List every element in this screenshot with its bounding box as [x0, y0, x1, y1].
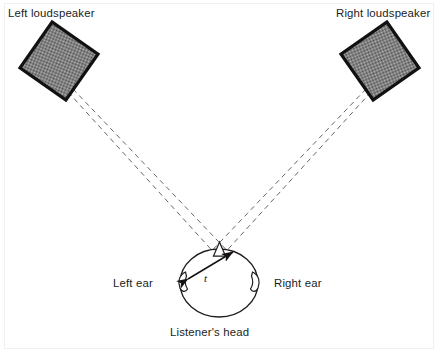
left-loudspeaker-label: Left loudspeaker	[8, 7, 95, 19]
stereo-listening-diagram: Left loudspeaker Right loudspeaker Left …	[0, 0, 438, 353]
figure-container: Left loudspeaker Right loudspeaker Left …	[0, 0, 438, 353]
listener-head-group	[179, 242, 259, 317]
left-speaker-body	[20, 22, 98, 100]
right-ear-label: Right ear	[274, 277, 322, 289]
head-outline	[180, 249, 258, 317]
left-ear-label: Left ear	[113, 277, 153, 289]
left-loudspeaker-shape	[20, 22, 98, 100]
right-loudspeaker-label: Right loudspeaker	[336, 7, 430, 19]
left-speaker-to-left-ear-path	[68, 92, 228, 268]
listeners-head-label: Listener's head	[170, 326, 249, 338]
right-loudspeaker-shape	[341, 22, 419, 100]
right-speaker-body	[341, 22, 419, 100]
right-speaker-to-right-ear-path	[211, 92, 371, 268]
